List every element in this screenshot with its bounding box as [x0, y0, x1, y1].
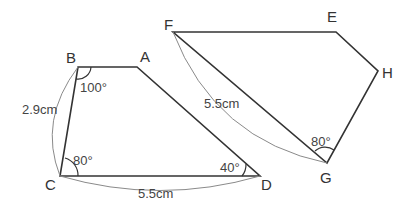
length-label-cd: 5.5cm	[138, 186, 173, 201]
quadrilateral-abcd: A B C D 100° 80° 40° 2.9cm 5.5cm	[22, 48, 272, 201]
vertex-label-a: A	[140, 48, 150, 65]
length-label-fg: 5.5cm	[204, 96, 239, 111]
vertex-label-g: G	[320, 169, 332, 186]
length-label-bc: 2.9cm	[22, 102, 57, 117]
vertex-label-d: D	[261, 176, 272, 193]
quadrilateral-efgh: F E H G 80° 5.5cm	[164, 8, 393, 186]
vertex-label-f: F	[164, 16, 173, 33]
geometry-diagram: A B C D 100° 80° 40° 2.9cm 5.5cm F E H G…	[0, 0, 410, 218]
vertex-label-c: C	[45, 176, 56, 193]
angle-label-b: 100°	[80, 80, 107, 95]
angle-label-d: 40°	[220, 160, 240, 175]
angle-label-g: 80°	[311, 134, 331, 149]
angle-mark-d	[242, 164, 246, 176]
vertex-label-h: H	[382, 64, 393, 81]
angle-label-c: 80°	[73, 153, 93, 168]
vertex-label-b: B	[66, 49, 76, 66]
vertex-label-e: E	[327, 8, 337, 25]
